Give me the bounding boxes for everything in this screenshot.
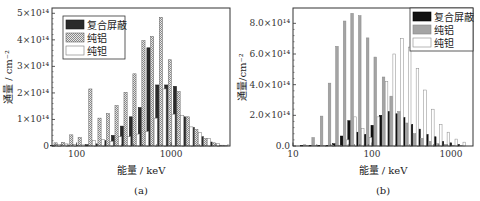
bar-gray-10 xyxy=(382,77,385,146)
bar-gray-15 xyxy=(421,138,424,146)
bar-hatched-11 xyxy=(151,36,154,146)
bar-white-17 xyxy=(207,139,210,146)
y-tick-label: 4×10¹⁴ xyxy=(17,35,49,45)
bar-white-15 xyxy=(424,90,427,146)
bar-white-6 xyxy=(354,117,357,146)
bar-hatched-6 xyxy=(106,114,109,146)
legend-label: 纯铝 xyxy=(434,24,454,36)
y-tick-label: 2×10¹⁴ xyxy=(17,88,49,98)
y-tick-label: 2.0×10¹⁴ xyxy=(249,110,290,120)
bar-gray-4 xyxy=(336,46,339,146)
bar-hatched-5 xyxy=(98,118,101,146)
x-tick-label: 1000 xyxy=(160,149,183,159)
bar-white-8 xyxy=(369,138,372,146)
bar-gray-3 xyxy=(328,83,331,146)
bar-gray-1 xyxy=(312,138,315,146)
bar-white-18 xyxy=(447,132,450,146)
bar-hatched-15 xyxy=(186,117,189,146)
bar-hatched-14 xyxy=(177,92,180,146)
bar-gray-13 xyxy=(405,123,408,146)
legend-label: 复合屏蔽 xyxy=(434,11,474,23)
y-tick-label: 1×10¹⁴ xyxy=(17,114,49,124)
bar-white-13 xyxy=(172,114,175,146)
bar-white-14 xyxy=(416,69,419,146)
bar-gray-11 xyxy=(390,96,393,146)
bar-white-14 xyxy=(181,115,184,146)
bar-gray-14 xyxy=(413,134,416,146)
bar-white-16 xyxy=(198,133,201,146)
bar-hatched-7 xyxy=(115,106,118,146)
bar-white-10 xyxy=(145,131,148,146)
y-tick-label: 4.0×10¹⁴ xyxy=(249,80,290,90)
bar-white-11 xyxy=(154,118,157,146)
legend-swatch-gray xyxy=(413,25,431,34)
x-tick-label: 100 xyxy=(363,149,380,159)
legend-swatch-white xyxy=(413,38,431,47)
legend-label: 纯钽 xyxy=(87,45,107,57)
panel-b: 0.02.0×10¹⁴4.0×10¹⁴6.0×10¹⁴8.0×10¹⁴10100… xyxy=(237,8,474,196)
y-tick-label: 0 xyxy=(43,141,49,151)
legend-swatch-black xyxy=(413,12,431,21)
bar-white-6 xyxy=(110,141,113,146)
panel-a: 01×10¹⁴2×10¹⁴3×10¹⁴4×10¹⁴5×10¹⁴1001000能量… xyxy=(3,8,230,196)
bar-gray-9 xyxy=(374,57,377,146)
bar-gray-7 xyxy=(358,16,361,146)
bar-white-7 xyxy=(361,128,364,146)
bar-gray-16 xyxy=(429,141,432,146)
bar-white-15 xyxy=(190,127,193,146)
legend-swatch-dark xyxy=(66,20,84,29)
y-tick-label: 3×10¹⁴ xyxy=(17,61,49,71)
legend-swatch-white xyxy=(66,46,84,55)
bar-hatched-4 xyxy=(89,89,92,146)
bar-white-17 xyxy=(439,125,442,146)
legend-label: 纯钽 xyxy=(434,37,454,49)
bar-white-5 xyxy=(102,139,105,146)
bar-white-4 xyxy=(92,141,95,146)
bar-gray-8 xyxy=(366,38,369,146)
bar-white-12 xyxy=(401,39,404,146)
bar-white-16 xyxy=(432,109,435,146)
bar-white-20 xyxy=(463,142,466,146)
x-axis-label: 能量 / keV xyxy=(359,164,409,176)
x-axis-label: 能量 / keV xyxy=(117,164,167,176)
bar-hatched-3 xyxy=(78,138,81,146)
bar-white-9 xyxy=(377,117,380,146)
bar-hatched-12 xyxy=(159,17,162,146)
bar-gray-12 xyxy=(398,112,401,147)
bar-hatched-17 xyxy=(204,139,207,146)
bar-gray-2 xyxy=(320,116,323,146)
bar-hatched-13 xyxy=(168,60,171,146)
y-axis-label: 通量/cm⁻² xyxy=(237,53,248,101)
bar-hatched-9 xyxy=(133,74,136,146)
figure: 01×10¹⁴2×10¹⁴3×10¹⁴4×10¹⁴5×10¹⁴1001000能量… xyxy=(0,0,480,201)
y-tick-label: 5×10¹⁴ xyxy=(17,8,49,18)
bar-white-9 xyxy=(136,134,139,146)
x-tick-label: 10 xyxy=(287,149,299,159)
bar-white-10 xyxy=(385,82,388,146)
x-tick-label: 100 xyxy=(68,149,85,159)
bar-white-12 xyxy=(163,89,166,146)
legend-swatch-hatched xyxy=(66,33,84,42)
bar-white-5 xyxy=(346,140,349,146)
x-tick-label: 1000 xyxy=(440,149,463,159)
bar-hatched-10 xyxy=(142,41,145,146)
bar-white-7 xyxy=(119,137,122,146)
legend-label: 复合屏蔽 xyxy=(87,19,127,31)
bar-gray-5 xyxy=(343,21,346,146)
y-tick-label: 8.0×10¹⁴ xyxy=(249,18,290,28)
y-axis-label: 通量 / cm⁻² xyxy=(3,50,14,104)
y-tick-label: 6.0×10¹⁴ xyxy=(249,49,290,59)
panel-caption: (b) xyxy=(376,185,390,196)
panel-caption: (a) xyxy=(134,185,148,196)
bar-hatched-16 xyxy=(195,130,198,146)
bar-white-19 xyxy=(455,139,458,146)
bar-white-13 xyxy=(408,47,411,146)
legend-label: 纯铝 xyxy=(87,32,107,44)
bar-white-8 xyxy=(128,137,131,146)
bar-gray-6 xyxy=(351,13,354,146)
bar-hatched-8 xyxy=(124,92,127,146)
bar-white-11 xyxy=(393,54,396,146)
